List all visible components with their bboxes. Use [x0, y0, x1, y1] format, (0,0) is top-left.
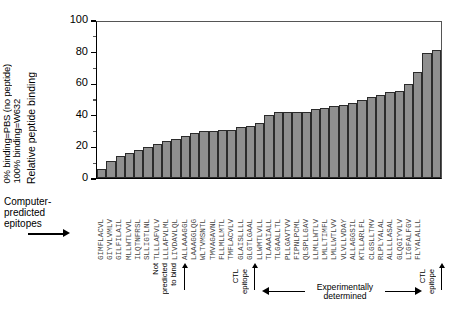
bar [422, 53, 431, 178]
y-axis-tick-label: 20 [60, 139, 88, 151]
x-axis-tick-label: GLQGIYVLV [395, 182, 404, 260]
x-axis-tick-label: LIVDAVLQL [171, 182, 180, 260]
peptide-sequence-label: LLMLLWTLV [312, 182, 320, 260]
x-axis-tick-label: TMFLACVLV [227, 182, 236, 260]
annotation-ctl-epitope-left-line2: epitope [240, 269, 249, 294]
peptide-sequence-label: LAAAGGLQG [190, 182, 198, 260]
y-axis-note-w632: 100% binding=W632 [12, 99, 22, 184]
annotation-ctl-epitope-left-line1: CTL [231, 269, 240, 283]
annotation-ctl-epitope-right-line2: epitope [427, 269, 436, 294]
x-axis-tick-label: ALLAGGSIL [348, 182, 357, 260]
peptide-sequence-label: SLLIGTLNL [143, 182, 151, 260]
bar [162, 141, 171, 178]
bar [190, 133, 199, 178]
experimentally-determined-arrow-left-icon [262, 287, 269, 295]
peptide-sequence-label: LIVDAVLQL [171, 182, 179, 260]
peptide-sequence-label: LLLAFVLML [162, 182, 170, 260]
bar [302, 112, 311, 178]
x-axis-tick-label: WLTVMSNTL [199, 182, 208, 260]
annotation-experimentally-line2: determined [305, 292, 385, 301]
x-axis-tick-label: RLPLYALAL [376, 182, 385, 260]
peptide-sequence-label: TLAAAIALL [265, 182, 273, 260]
bar [116, 156, 125, 178]
annotation-computer-predicted-line2: predicted [4, 207, 51, 218]
peptide-sequence-label: MLLWTLVVL [125, 182, 133, 260]
bar [97, 169, 106, 178]
peptide-sequence-label: ALLAAAGGL [181, 182, 189, 260]
peptide-sequence-label: LMLLWTLVV [330, 182, 338, 260]
annotation-ctl-epitope-left-2: epitope [241, 269, 249, 294]
peptide-sequence-label: TLGAALLTL [274, 182, 282, 260]
not-predicted-arrow-stem [184, 268, 185, 290]
peptide-sequence-label: GIYVLVMLV [106, 182, 114, 260]
annotation-not-predicted-line1: Not [151, 263, 160, 275]
y-axis-tick-label: 80 [60, 45, 88, 57]
x-axis-tick-label: QLSPLLGAV [302, 182, 311, 260]
annotation-not-predicted-line3: to bind [169, 263, 178, 286]
peptide-sequence-label: GIMFLACVL [97, 182, 105, 260]
x-axis-tick-label: LLMLLWTLV [311, 182, 320, 260]
x-axis-tick-label: LLLAFVLML [161, 182, 170, 260]
x-axis-tick-label: CLGSLLTMV [367, 182, 376, 260]
annotation-computer-predicted-line1: Computer- [4, 196, 51, 207]
peptide-sequence-label: FLLMLLMTL [218, 182, 226, 260]
experimentally-determined-arrow-right-icon [415, 287, 422, 295]
bar [395, 91, 404, 178]
peptide-sequence-label: FIPNLPCML [293, 182, 301, 260]
peptide-sequence-label: PLLGAVTVV [284, 182, 292, 260]
bar [264, 115, 273, 178]
bar [236, 127, 245, 178]
bar [218, 130, 227, 178]
x-axis-tick-label: GILFILAIL [115, 182, 124, 260]
bar [320, 108, 329, 178]
peptide-sequence-label: CLGSLLTMV [368, 182, 376, 260]
bar [283, 112, 292, 178]
x-axis-tick-label: KTLLARLFL [358, 182, 367, 260]
y-axis-tick-label: 0 [60, 171, 88, 183]
not-predicted-arrow-icon [182, 263, 188, 268]
x-axis-tick-label: FIPNLPCML [292, 182, 301, 260]
annotation-ctl-epitope-left-1: CTL [232, 269, 240, 283]
x-axis-tick-label: TLGAALLTL [274, 182, 283, 260]
annotation-not-predicted: Not [152, 263, 160, 275]
x-axis-tick-label: TLAAAIALL [264, 182, 273, 260]
x-axis-tick-label [423, 182, 432, 260]
x-axis-tick-label: VLVLLVDAY [339, 182, 348, 260]
x-axis-tick-label: LLWMTLVLL [255, 182, 264, 260]
annotation-ctl-epitope-right-2: epitope [428, 269, 436, 294]
bar [246, 126, 255, 178]
ctl-epitope-right-arrow-icon [439, 263, 445, 268]
bar [348, 103, 357, 178]
annotation-ctl-epitope-right-line1: CTL [418, 269, 427, 283]
bar [125, 153, 134, 178]
x-axis-tick-label [432, 182, 441, 260]
bar [209, 131, 218, 178]
x-axis-tick-label: FLYALALLL [414, 182, 423, 260]
ctl-epitope-left-arrow-stem [254, 268, 255, 290]
bar [181, 136, 190, 178]
peptide-sequence-label: QLSPLLGAV [302, 182, 310, 260]
y-axis-tick-label: 40 [60, 108, 88, 120]
bar [227, 130, 236, 178]
bar [339, 105, 348, 178]
peptide-sequence-label: TMVAGAVNL [209, 182, 217, 260]
x-axis-tick-label: GLGTLGAAL [246, 182, 255, 260]
bar [404, 84, 413, 178]
annotation-not-predicted-line2: predicted [160, 263, 169, 294]
x-axis-tick-label: FLLMLLMTL [217, 182, 226, 260]
x-axis-tick-label: TLLLAFVLV [152, 182, 161, 260]
x-axis-tick-label: LAAAGGLQG [189, 182, 198, 260]
peptide-sequence-label: ALLAGGSIL [349, 182, 357, 260]
annotation-not-predicted-3: to bind [170, 263, 178, 286]
bar [153, 144, 162, 178]
x-axis-tick-label: PLLGAVTVV [283, 182, 292, 260]
y-axis-tick-label: 60 [60, 76, 88, 88]
x-axis-tick-label: ALLAAAGGL [180, 182, 189, 260]
y-axis-title-group: 0% binding=PBS (no peptide) 100% binding… [2, 14, 37, 184]
y-axis-title: Relative peptide binding [25, 72, 37, 184]
peptide-sequence-label: TMFLACVLV [227, 182, 235, 260]
annotation-computer-predicted: Computer- predicted epitopes [4, 196, 51, 229]
annotation-not-predicted-2: predicted [161, 263, 169, 294]
annotation-experimentally-determined: Experimentally determined [305, 283, 385, 301]
peptide-sequence-label: LMLLTIMFL [321, 182, 329, 260]
